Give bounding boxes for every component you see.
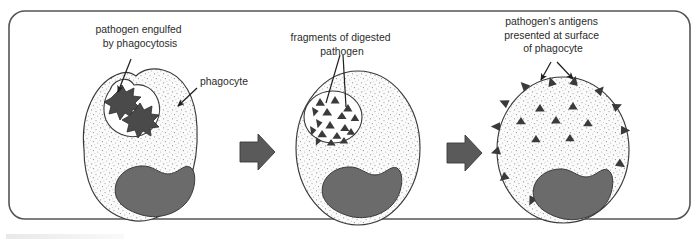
phagocytosis-figure: pathogen engulfed by phagocytosis phagoc… bbox=[0, 0, 699, 240]
figure-canvas: pathogen engulfed by phagocytosis phagoc… bbox=[0, 0, 699, 240]
fragments-label-line-1: fragments of digested bbox=[291, 32, 391, 43]
pathogen-engulfed-label-line-2: by phagocytosis bbox=[103, 38, 178, 49]
fragments-label-line-2: pathogen bbox=[320, 46, 364, 57]
page-edge-artifact bbox=[6, 234, 124, 239]
phagocyte-label-line-1: phagocyte bbox=[200, 76, 248, 87]
antigens-label-line-1: pathogen's antigens bbox=[505, 16, 598, 27]
pathogen-engulfed-label-line-1: pathogen engulfed bbox=[96, 24, 182, 35]
antigens-label-line-3: of phagocyte bbox=[523, 43, 583, 54]
phagocyte-label: phagocyte bbox=[200, 76, 248, 87]
antigens-label-line-2: presented at surface bbox=[504, 30, 599, 41]
